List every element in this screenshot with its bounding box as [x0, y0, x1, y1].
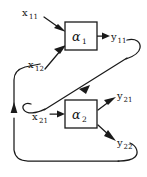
label-y11-base: y — [110, 31, 117, 42]
label-x11-subscript: 11 — [29, 13, 38, 21]
label-y11: y 11 — [110, 31, 126, 45]
label-x12-subscript: 12 — [35, 65, 44, 73]
wire-x12-line — [45, 50, 61, 69]
feedback-up-arrowhead — [11, 102, 18, 113]
diagram-canvas: α 1 α 2 x 11 x 12 x 21 y 11 y 21 — [0, 0, 147, 177]
wire-y11-arrowhead — [102, 33, 110, 40]
label-y21-subscript: 21 — [124, 96, 133, 104]
wire-x12-to-alpha1 — [45, 45, 66, 69]
label-y22-base: y — [116, 137, 123, 148]
label-x11-base: x — [22, 7, 28, 18]
block-alpha1-symbol: α — [72, 29, 81, 44]
label-y21: y 21 — [116, 90, 132, 104]
label-x11: x 11 — [22, 7, 38, 21]
block-alpha2-rect — [65, 100, 97, 128]
wire-x12-arrowhead — [54, 45, 66, 54]
label-y21-base: y — [116, 90, 123, 101]
signal-flow-diagram: α 1 α 2 x 11 x 12 x 21 y 11 y 21 — [0, 0, 147, 177]
wire-x11-to-alpha1 — [44, 17, 66, 32]
label-x12: x 12 — [28, 59, 44, 73]
label-x21-base: x — [32, 111, 38, 122]
block-alpha2[interactable]: α 2 — [65, 100, 97, 128]
wire-alpha1-to-y11 — [97, 33, 110, 40]
wire-x21-arrowhead — [57, 111, 65, 118]
block-alpha1-rect — [65, 22, 97, 50]
block-alpha2-symbol: α — [72, 107, 81, 122]
wire-alpha2-to-y22 — [98, 125, 116, 141]
label-x21: x 21 — [32, 111, 48, 125]
block-alpha1-subscript: 1 — [82, 37, 87, 46]
wire-alpha2-to-y21 — [98, 97, 116, 110]
block-alpha2-subscript: 2 — [82, 115, 87, 124]
label-y22-subscript: 22 — [124, 143, 133, 151]
label-x21-subscript: 21 — [39, 117, 48, 125]
label-y11-subscript: 11 — [118, 37, 127, 45]
label-y22: y 22 — [116, 137, 132, 151]
label-x12-base: x — [28, 59, 34, 70]
feedback-hook-top-right — [126, 39, 140, 59]
wire-x21-to-alpha2 — [50, 111, 65, 118]
block-alpha1[interactable]: α 1 — [65, 22, 97, 50]
